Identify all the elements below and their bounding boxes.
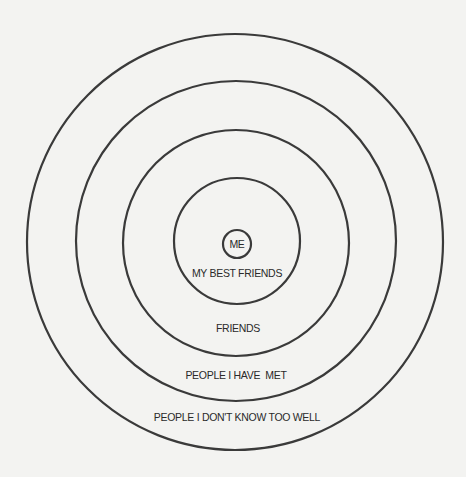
concentric-friendship-diagram: ME MY BEST FRIENDS FRIENDS PEOPLE I HAVE…	[0, 0, 466, 477]
label-people-i-dont-know-too-well: PEOPLE I DON'T KNOW TOO WELL	[154, 411, 320, 423]
label-friends: FRIENDS	[216, 322, 260, 334]
label-me: ME	[229, 238, 244, 250]
label-my-best-friends: MY BEST FRIENDS	[192, 267, 282, 279]
label-people-i-have-met: PEOPLE I HAVE MET	[185, 369, 286, 381]
